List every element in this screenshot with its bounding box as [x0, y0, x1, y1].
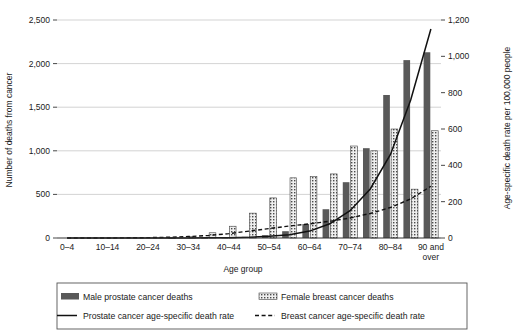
- x-axis-tick-label: 10–14: [96, 242, 120, 252]
- legend-item-label: Female breast cancer deaths: [281, 292, 394, 302]
- y-axis-right-tick-label: 800: [448, 88, 462, 98]
- chart-background: [0, 0, 521, 334]
- y-axis-right-title: Age-specific death rate per 100,000 peop…: [502, 46, 512, 209]
- bar-female-breast: [229, 226, 236, 238]
- x-axis-tick-label: 0–4: [60, 242, 74, 252]
- bar-male-prostate: [403, 60, 410, 238]
- y-axis-right-tick-label: 600: [448, 124, 462, 134]
- bar-male-prostate: [424, 52, 431, 238]
- y-axis-right-tick-label: 400: [448, 160, 462, 170]
- x-axis-tick-label: 90 and: [418, 242, 444, 252]
- y-axis-right-tick-label: 0: [448, 233, 453, 243]
- x-axis-tick-label: 20–24: [136, 242, 160, 252]
- x-axis-tick-label: 80–84: [379, 242, 403, 252]
- y-axis-left-tick-label: 2,500: [29, 15, 51, 25]
- legend-swatch-bar-hatched: [259, 293, 277, 300]
- legend-item-label: Prostate cancer age-specific death rate: [83, 311, 234, 321]
- bar-female-breast: [270, 198, 277, 238]
- x-axis-tick-label: over: [423, 252, 440, 262]
- x-axis-tick-label: 30–34: [177, 242, 201, 252]
- bar-female-breast: [431, 131, 438, 238]
- x-axis-tick-label: 40–44: [217, 242, 241, 252]
- y-axis-left-tick-label: 500: [36, 189, 50, 199]
- legend-item: Prostate cancer age-specific death rate: [57, 311, 234, 321]
- legend-item-label: Male prostate cancer deaths: [83, 292, 193, 302]
- bar-female-breast: [330, 174, 337, 238]
- bar-male-prostate: [343, 182, 350, 238]
- y-axis-right-tick-label: 1,200: [448, 15, 470, 25]
- y-axis-left-tick-label: 1,500: [29, 102, 51, 112]
- y-axis-left-tick-label: 0: [45, 233, 50, 243]
- y-axis-left-tick-label: 2,000: [29, 59, 51, 69]
- bar-female-breast: [250, 213, 257, 238]
- y-axis-right-tick-label: 1,000: [448, 51, 470, 61]
- y-axis-left-title: Number of deaths from cancer: [4, 72, 14, 187]
- legend-item-label: Breast cancer age-specific death rate: [281, 311, 425, 321]
- bar-female-breast: [290, 178, 297, 238]
- x-axis-tick-label: 60–64: [298, 242, 322, 252]
- legend-swatch-bar-solid: [61, 293, 79, 300]
- y-axis-right-tick-label: 200: [448, 197, 462, 207]
- legend-item: Breast cancer age-specific death rate: [255, 311, 425, 321]
- y-axis-left-tick-label: 1,000: [29, 146, 51, 156]
- bar-female-breast: [371, 151, 378, 238]
- x-axis-tick-label: 50–54: [257, 242, 281, 252]
- bar-female-breast: [351, 146, 358, 238]
- x-axis-title: Age group: [223, 264, 262, 274]
- x-axis-tick-label: 70–74: [338, 242, 362, 252]
- dual-axis-cancer-deaths-chart: 05001,0001,5002,0002,500 02004006008001,…: [0, 0, 521, 334]
